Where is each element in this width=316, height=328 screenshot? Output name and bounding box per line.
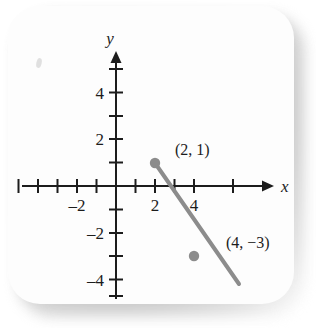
x-tick-label-2: 2 — [151, 196, 160, 215]
y-tick-label--2: –2 — [86, 224, 104, 243]
point-label-4-neg3: (4, −3) — [226, 234, 270, 252]
x-tick-label--2: –2 — [68, 196, 86, 215]
line-segment — [155, 163, 239, 284]
scan-artifact-speck — [35, 58, 42, 69]
y-axis-title: y — [104, 29, 114, 48]
y-tick-label-2: 2 — [96, 130, 105, 149]
figure-root: –2 2 4 x 4 2 –2 –4 y — [0, 0, 316, 328]
y-tick-label--4: –4 — [86, 271, 105, 290]
line-segment-group — [150, 158, 239, 284]
y-axis-arrowhead — [111, 51, 122, 63]
coordinate-plane: –2 2 4 x 4 2 –2 –4 y — [0, 0, 316, 328]
x-axis-group: –2 2 4 x — [19, 177, 290, 215]
y-axis-group: 4 2 –2 –4 y — [86, 29, 123, 299]
x-axis-title: x — [280, 177, 289, 196]
data-point-4-neg3 — [189, 251, 199, 261]
data-point-2-1 — [150, 158, 160, 168]
point-label-2-1: (2, 1) — [175, 141, 210, 159]
y-tick-label-4: 4 — [96, 84, 105, 103]
x-axis-arrowhead — [262, 181, 274, 192]
